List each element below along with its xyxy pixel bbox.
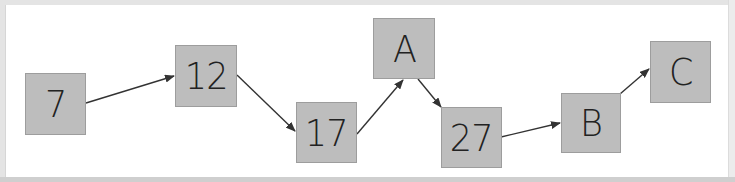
node-label: 27 xyxy=(450,116,493,160)
node-label: 7 xyxy=(45,82,66,126)
node-label: 17 xyxy=(305,111,348,155)
node-12: 12 xyxy=(175,45,237,107)
node-c: C xyxy=(650,41,711,103)
edge-A-to-27 xyxy=(418,79,441,107)
edge-27-to-B xyxy=(501,123,560,137)
node-7: 7 xyxy=(25,73,86,135)
node-17: 17 xyxy=(296,102,357,163)
node-27: 27 xyxy=(441,107,502,168)
edge-B-to-C xyxy=(620,69,649,94)
edge-17-to-A xyxy=(357,80,403,134)
node-b: B xyxy=(561,93,621,153)
node-label: 12 xyxy=(185,54,228,98)
edge-7-to-12 xyxy=(86,76,174,103)
node-label: A xyxy=(393,27,416,71)
node-a: A xyxy=(373,18,435,79)
node-label: B xyxy=(580,101,602,145)
edge-12-to-17 xyxy=(237,75,295,131)
edges-layer xyxy=(0,0,735,182)
node-label: C xyxy=(669,50,693,94)
